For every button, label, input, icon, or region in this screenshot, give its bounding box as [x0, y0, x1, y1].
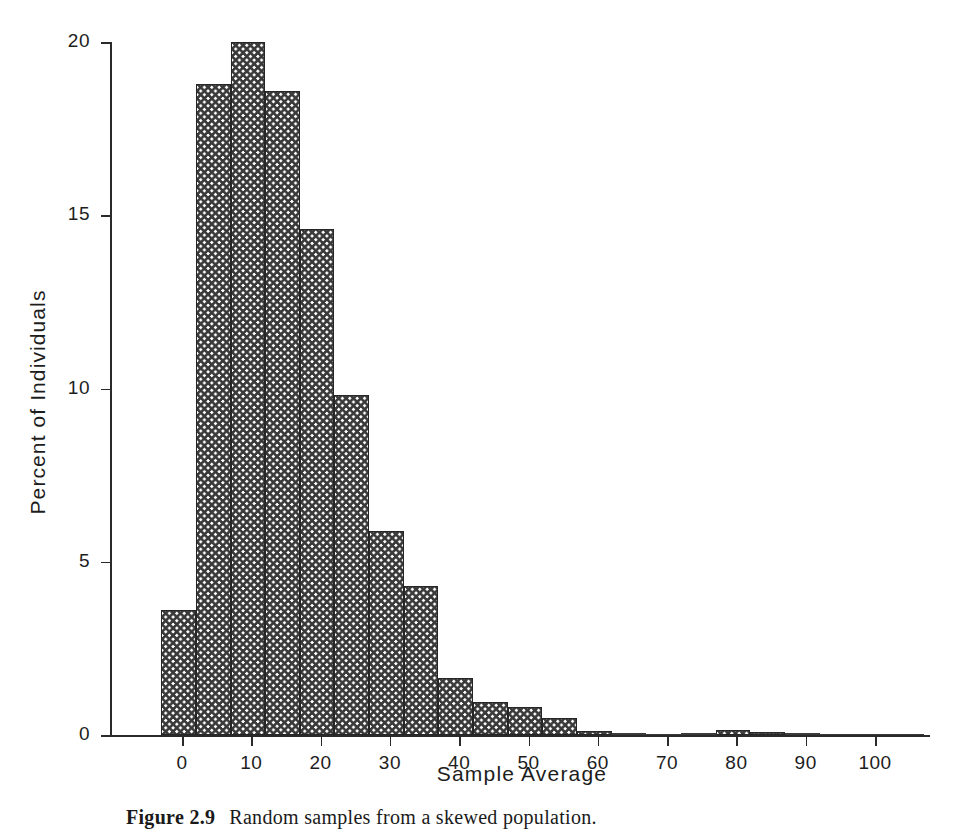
- histogram-bar: [265, 91, 300, 735]
- y-axis-tick: [101, 42, 111, 44]
- figure-caption: Figure 2.9Random samples from a skewed p…: [126, 806, 846, 829]
- bar-group: [0, 0, 974, 790]
- histogram-bar: [646, 734, 681, 735]
- y-axis-tick-label: 0: [79, 723, 90, 745]
- histogram-bar: [161, 610, 196, 735]
- figure-caption-text: Random samples from a skewed population.: [229, 806, 597, 828]
- y-axis-tick-label: 15: [68, 203, 90, 225]
- y-axis-title: Percent of Individuals: [26, 252, 50, 552]
- x-axis-tick: [806, 736, 808, 746]
- figure-number: Figure 2.9: [126, 806, 215, 828]
- histogram-bar: [300, 229, 335, 735]
- histogram-bar: [231, 42, 266, 735]
- histogram-bar: [438, 678, 473, 735]
- histogram-bar: [334, 395, 369, 735]
- histogram-bar: [681, 733, 716, 735]
- y-axis-tick-label: 5: [79, 550, 90, 572]
- histogram-bar: [577, 731, 612, 735]
- x-axis-tick: [598, 736, 600, 746]
- x-axis-title: Sample Average: [0, 762, 974, 786]
- histogram-bar: [785, 733, 820, 735]
- x-axis-tick: [182, 736, 184, 746]
- y-axis-tick: [101, 389, 111, 391]
- y-axis-tick: [101, 562, 111, 564]
- x-axis-tick: [251, 736, 253, 746]
- histogram-bar: [369, 531, 404, 735]
- x-axis-tick: [390, 736, 392, 746]
- x-axis-tick: [459, 736, 461, 746]
- histogram-bar: [716, 730, 751, 735]
- histogram-bar: [473, 702, 508, 735]
- x-axis-tick: [529, 736, 531, 746]
- histogram-bar: [612, 733, 647, 735]
- y-axis-tick: [101, 215, 111, 217]
- histogram-bar: [196, 84, 231, 735]
- x-axis-tick: [736, 736, 738, 746]
- histogram-plot: 010203040506070809010005101520 Sample Av…: [0, 0, 974, 790]
- y-axis-tick-label: 20: [68, 30, 90, 52]
- x-axis-title-text: Sample Average: [437, 762, 608, 786]
- histogram-bar: [750, 732, 785, 735]
- histogram-bar: [889, 734, 924, 735]
- histogram-bar: [820, 734, 855, 735]
- y-axis-tick-label: 10: [68, 377, 90, 399]
- histogram-bar: [854, 734, 889, 735]
- figure-container: 010203040506070809010005101520 Sample Av…: [0, 0, 974, 832]
- histogram-bar: [404, 586, 439, 735]
- x-axis-tick: [321, 736, 323, 746]
- x-axis-tick: [667, 736, 669, 746]
- histogram-bar: [508, 707, 543, 735]
- histogram-bar: [542, 718, 577, 735]
- y-axis-tick: [101, 735, 111, 737]
- x-axis-tick: [875, 736, 877, 746]
